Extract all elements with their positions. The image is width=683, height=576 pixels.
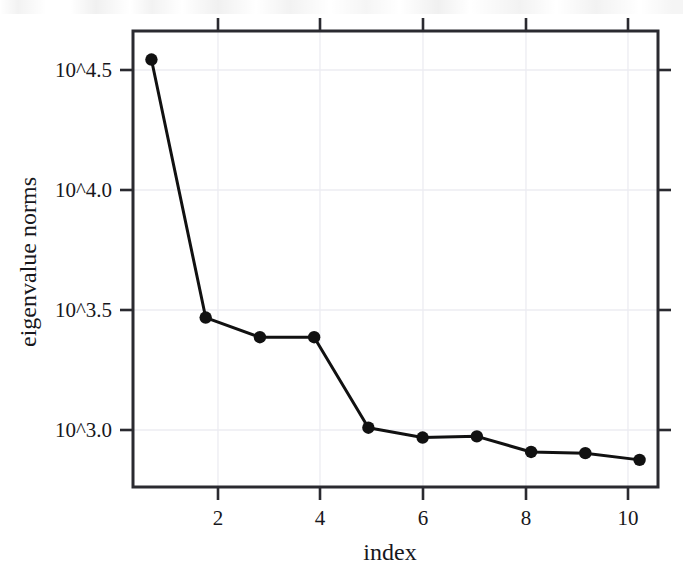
xtick-label-0: 2 [213, 506, 224, 530]
data-point-10 [633, 454, 645, 466]
y-axis-ticks-right [658, 70, 671, 430]
xtick-label-1: 4 [315, 506, 326, 530]
x-axis-ticks-bottom [218, 487, 628, 500]
ytick-label-3: 10^3.0 [55, 418, 112, 442]
ytick-label-1: 10^4.0 [55, 178, 112, 202]
chart-page: 10^4.5 10^4.0 10^3.5 10^3.0 2 4 6 8 10 i… [0, 0, 683, 576]
ytick-label-0: 10^4.5 [55, 58, 112, 82]
eigenvalue-scree-plot: 10^4.5 10^4.0 10^3.5 10^3.0 2 4 6 8 10 i… [0, 0, 683, 576]
xtick-label-3: 8 [521, 506, 532, 530]
ytick-label-2: 10^3.5 [55, 298, 112, 322]
data-point-6 [416, 431, 428, 443]
xtick-label-2: 6 [418, 506, 429, 530]
data-point-1 [145, 53, 157, 65]
data-point-9 [579, 447, 591, 459]
y-axis-title: eigenvalue norms [15, 177, 41, 347]
data-point-4 [308, 331, 320, 343]
x-axis-ticks-top [218, 18, 628, 31]
data-point-7 [471, 430, 483, 442]
data-point-5 [362, 422, 374, 434]
data-point-8 [525, 446, 537, 458]
x-axis-title: index [363, 539, 416, 565]
xtick-label-4: 10 [618, 506, 639, 530]
data-point-2 [199, 311, 211, 323]
y-axis-ticks-left [120, 70, 133, 430]
data-point-3 [254, 331, 266, 343]
plot-background [133, 31, 658, 487]
